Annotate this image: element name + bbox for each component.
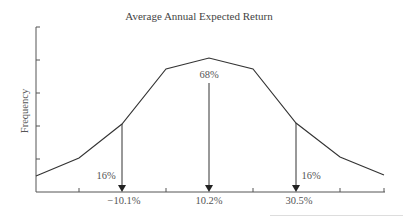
y-axis [36, 27, 40, 192]
arrow-left [118, 124, 126, 192]
arrow-right [292, 123, 300, 192]
x-tick-label-neg: −10.1% [107, 195, 140, 206]
x-tick-label-pos: 30.5% [285, 195, 312, 206]
pct-label-right: 16% [301, 170, 321, 181]
chart-svg: Average Annual Expected Return Frequency [0, 0, 403, 218]
pct-label-left: 16% [96, 170, 116, 181]
chart-title: Average Annual Expected Return [125, 10, 273, 22]
chart: Average Annual Expected Return Frequency [0, 0, 403, 218]
arrowhead-icon [118, 185, 126, 192]
y-axis-label: Frequency [19, 88, 30, 133]
pct-label-center: 68% [199, 69, 219, 80]
arrowhead-icon [205, 185, 213, 192]
arrow-center [205, 83, 213, 192]
arrowhead-icon [292, 185, 300, 192]
x-tick-label-mid: 10.2% [195, 195, 222, 206]
